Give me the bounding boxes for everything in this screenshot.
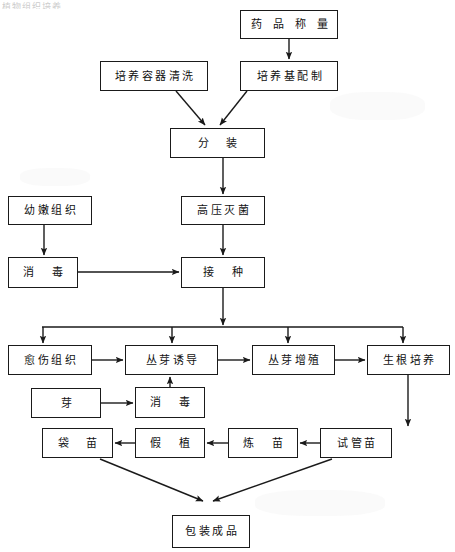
node-temporary-planting: 假 植 xyxy=(135,428,205,458)
node-callus-tissue: 愈伤组织 xyxy=(8,345,92,375)
flowchart-canvas: 植物组织培养 xyxy=(0,0,455,552)
edge-medium-to-dispense xyxy=(220,91,247,125)
edge-wash-to-dispense xyxy=(176,91,205,125)
node-bag-seedling: 袋 苗 xyxy=(42,428,113,458)
node-wash-containers: 培养容器清洗 xyxy=(100,61,208,91)
node-shoot-induction: 丛芽诱导 xyxy=(125,345,218,375)
node-test-tube-seedling: 试管苗 xyxy=(320,428,392,458)
node-packaged-product: 包装成品 xyxy=(172,515,250,548)
node-hardening-seedling: 炼 苗 xyxy=(228,428,298,458)
node-bud: 芽 xyxy=(31,388,101,418)
node-prepare-medium: 培养基配制 xyxy=(240,61,338,91)
edge-bag-to-packaged xyxy=(100,459,203,501)
node-dispense: 分 装 xyxy=(170,128,265,158)
node-rooting-culture: 生根培养 xyxy=(367,345,450,375)
node-disinfect-bud: 消 毒 xyxy=(135,387,205,418)
node-shoot-multiplication: 丛芽增殖 xyxy=(252,345,335,375)
edge-tube-to-packaged xyxy=(213,459,332,501)
node-autoclave-sterilize: 高压灭菌 xyxy=(181,196,265,225)
node-inoculate: 接 种 xyxy=(181,257,265,288)
node-young-tissue: 幼嫩组织 xyxy=(8,196,92,225)
node-disinfect-tissue: 消 毒 xyxy=(8,257,78,288)
node-weigh-chemicals: 药品称量 xyxy=(240,10,338,39)
cropped-title-fragment: 植物组织培养 xyxy=(2,0,122,9)
